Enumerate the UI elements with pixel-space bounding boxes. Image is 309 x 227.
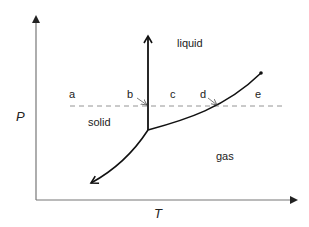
point-e-label: e [255,89,261,100]
sublimation-curve [91,130,148,183]
point-c-label: c [170,89,176,100]
point-d-label: d [200,89,206,100]
region-liquid-label: liquid [177,38,203,49]
phase-diagram [0,0,309,227]
region-solid-label: solid [88,117,111,128]
x-axis-label: T [154,207,162,220]
pointer-d [208,98,217,105]
y-axis-label: P [16,110,25,123]
region-gas-label: gas [216,151,234,162]
pointer-b [137,98,147,105]
vaporization-curve [148,73,261,130]
critical-point [259,71,263,75]
point-b-label: b [127,89,133,100]
point-a-label: a [69,89,75,100]
